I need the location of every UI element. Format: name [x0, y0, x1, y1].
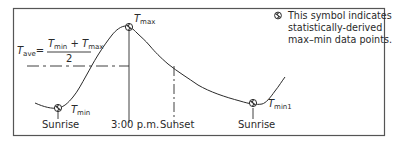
legend-line-3: max–min data points. [274, 34, 386, 46]
tmax-point-subscript: max [140, 18, 155, 26]
denominator-value: 2 [66, 53, 72, 64]
sunrise1-label: Sunrise [42, 119, 79, 130]
formula-denominator: 2 [66, 53, 72, 64]
tmax-marker-icon [125, 23, 132, 30]
legend-line-2: statistically-derived [274, 22, 386, 34]
tave-subscript: ave [23, 50, 36, 58]
tmax-label: Tmax [134, 13, 155, 26]
tmin1-point-subscript: min1 [274, 103, 292, 111]
legend-line-1: This symbol indicates [274, 10, 386, 22]
tmin-point-subscript: min [77, 109, 90, 117]
tave-label: Tave= [17, 45, 44, 58]
sunset-label: Sunset [160, 119, 194, 130]
tmin-subscript: min [54, 43, 67, 51]
legend: This symbol indicates statistically-deri… [274, 10, 386, 46]
formula-numerator: Tmin + Tmax [48, 38, 103, 51]
tmin-marker-icon [54, 104, 61, 111]
tmin1-marker-icon [249, 99, 256, 106]
equals-sign: = [36, 45, 44, 56]
tmin-label: Tmin [71, 104, 90, 117]
tmax-subscript: max [88, 43, 103, 51]
sunrise2-label: Sunrise [238, 119, 275, 130]
plus-sign: + [71, 38, 79, 49]
tmin1-label: Tmin1 [268, 98, 292, 111]
three-pm-label: 3:00 p.m. [111, 119, 159, 130]
